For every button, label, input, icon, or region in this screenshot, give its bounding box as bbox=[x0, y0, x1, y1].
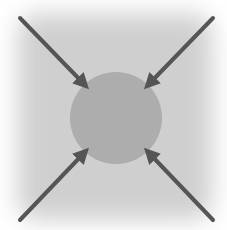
arrow-bottom-left bbox=[20, 153, 84, 220]
arrow-top-left bbox=[20, 18, 84, 84]
diagram-canvas bbox=[0, 0, 227, 230]
diagram bbox=[0, 0, 227, 230]
arrow-bottom-right bbox=[149, 153, 213, 220]
arrow-top-right bbox=[149, 18, 213, 84]
